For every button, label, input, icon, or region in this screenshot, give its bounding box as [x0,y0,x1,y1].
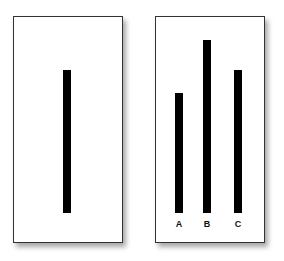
line-c [234,70,242,213]
label-c: C [232,219,244,229]
line-b [203,40,211,213]
label-a: A [173,219,185,229]
label-b: B [201,219,213,229]
comparison-card: A B C [155,16,265,243]
reference-line [63,70,71,213]
reference-card [13,16,123,243]
line-a [175,93,183,213]
